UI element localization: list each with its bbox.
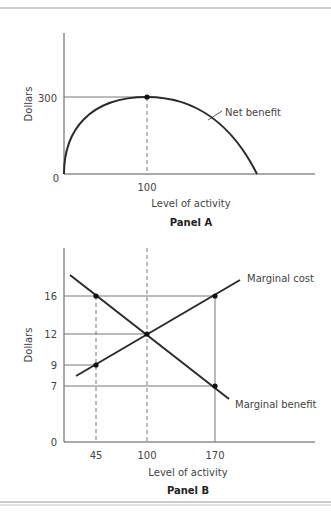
marginal-benefit-line [70,275,229,399]
panel-a-y-tick-0: 0 [53,173,59,184]
panel-b-y-tick-9: 9 [51,360,57,371]
panel-b-y-label: Dollars [23,328,34,363]
net-benefit-label: Net benefit [225,107,281,118]
panel-b: Marginal cost Marginal benefit 16 12 9 7… [23,248,317,496]
panel-a-title: Panel A [170,217,213,228]
point-170-7 [212,383,217,388]
point-170-16 [212,293,217,298]
panel-a-y-tick-300: 300 [38,93,57,104]
panel-b-x-tick-45: 45 [90,450,103,461]
panel-b-x-tick-100: 100 [137,450,156,461]
panel-a-y-label: Dollars [23,87,34,122]
panel-b-y-tick-12: 12 [44,329,57,340]
point-45-16 [93,293,98,298]
panel-a-max-point [144,94,149,99]
marginal-benefit-label: Marginal benefit [235,399,317,410]
panel-a: Net benefit 300 0 100 Level of activity … [23,33,315,228]
panel-b-y-tick-7: 7 [51,381,57,392]
point-100-12 [144,331,149,336]
panel-b-x-tick-170: 170 [205,450,224,461]
panel-b-x-label: Level of activity [148,467,227,478]
marginal-cost-label: Marginal cost [247,273,314,284]
panel-b-y-tick-0: 0 [51,437,57,448]
panel-a-x-tick-100: 100 [137,182,156,193]
panel-a-x-label: Level of activity [151,198,230,209]
panel-b-y-tick-16: 16 [44,291,57,302]
point-45-9 [93,362,98,367]
figure: Net benefit 300 0 100 Level of activity … [0,0,331,515]
panel-b-title: Panel B [167,485,209,496]
